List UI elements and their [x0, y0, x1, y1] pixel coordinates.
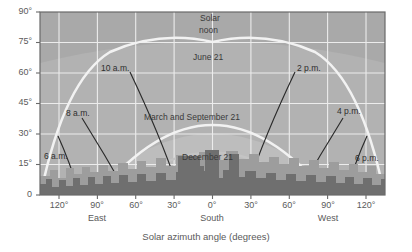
hour-label-6pm: 6 p.m.	[355, 153, 379, 163]
x-axis-caption: Solar azimuth angle (degrees)	[0, 231, 412, 242]
x-tick-south-0: 0°	[192, 200, 232, 210]
x-tick-west-120: 120°	[346, 200, 386, 210]
y-tick-90: 90°	[2, 6, 32, 16]
y-tick-30: 30°	[2, 128, 32, 138]
x-tick-east-30: 30°	[154, 200, 194, 210]
equinox-label: March and September 21	[144, 112, 240, 122]
y-tick-45: 45°	[2, 97, 32, 107]
y-tick-75: 75°	[2, 36, 32, 46]
june-21-label: June 21	[193, 52, 223, 62]
x-tick-west-60: 60°	[269, 200, 309, 210]
hour-label-6am: 6 a.m.	[44, 151, 68, 161]
solar-noon-label-line1: Solar	[200, 13, 220, 23]
x-axis-ticks	[59, 195, 366, 199]
x-tick-west-30: 30°	[231, 200, 271, 210]
direction-label-east: East	[72, 213, 122, 223]
y-tick-60: 60°	[2, 67, 32, 77]
x-tick-east-120: 120°	[39, 200, 79, 210]
direction-label-south: South	[187, 213, 237, 223]
hour-label-2pm: 2 p.m.	[297, 63, 321, 73]
hour-label-4pm: 4 p.m.	[337, 106, 361, 116]
december-21-label: December 21	[182, 152, 233, 162]
direction-label-west: West	[303, 213, 353, 223]
x-tick-east-90: 90°	[77, 200, 117, 210]
y-tick-0: 0	[2, 189, 32, 199]
hour-label-10am: 10 a.m.	[101, 63, 129, 73]
x-tick-east-60: 60°	[116, 200, 156, 210]
solar-noon-label-line2: noon	[199, 25, 218, 35]
solar-path-chart-figure: 90° 75° 60° 45° 30° 15° 0 120° 90° 60° 3…	[0, 0, 412, 252]
y-tick-15: 15°	[2, 158, 32, 168]
x-tick-west-90: 90°	[308, 200, 348, 210]
hour-label-8am: 8 a.m.	[66, 108, 90, 118]
